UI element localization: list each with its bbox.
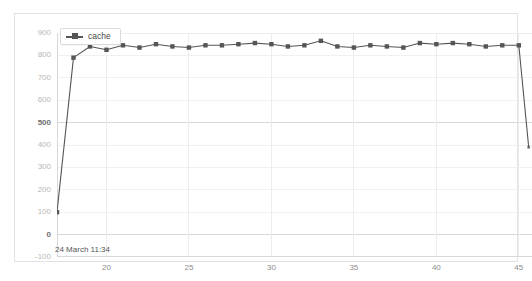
y-tick-label: 0 (47, 231, 51, 239)
x-tick-label: 25 (184, 264, 193, 272)
chart-card: -1000100200300400500600700800900 2025303… (14, 13, 518, 262)
x-tick-label: 30 (267, 264, 276, 272)
x-tick-label: 45 (514, 264, 523, 272)
y-tick-label: 600 (38, 96, 51, 104)
x-tick-label: 35 (349, 264, 358, 272)
y-tick-label: 500 (38, 119, 51, 127)
x-tick-label: 40 (432, 264, 441, 272)
y-tick-label: -100 (35, 253, 51, 261)
y-tick-label: 400 (38, 141, 51, 149)
y-gridlines (57, 33, 532, 257)
y-tick-label: 700 (38, 74, 51, 82)
y-tick-label: 100 (38, 208, 51, 216)
y-tick-label: 200 (38, 186, 51, 194)
y-tick-label: 300 (38, 163, 51, 171)
chart-svg (57, 33, 532, 257)
x-tick-label: 20 (102, 264, 111, 272)
y-tick-label: 800 (38, 51, 51, 59)
series-cache (57, 39, 530, 215)
chart-timestamp: 24 March 11:34 (55, 245, 110, 254)
legend-label: cache (88, 32, 111, 41)
screenshot-root: -1000100200300400500600700800900 2025303… (0, 0, 532, 281)
chart-plot-area (57, 33, 532, 257)
y-tick-label: 900 (38, 29, 51, 37)
chart-legend[interactable]: cache (60, 28, 121, 45)
legend-marker-icon (66, 33, 83, 40)
